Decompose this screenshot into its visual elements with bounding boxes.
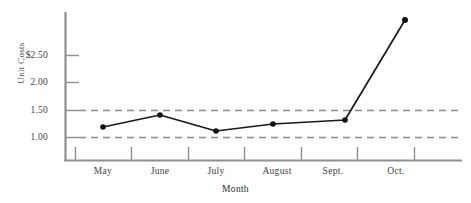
x-axis-ticks xyxy=(76,147,415,161)
y-axis-ticks xyxy=(65,56,79,138)
chart-page: { "chart_data": { "type": "line", "title… xyxy=(0,0,471,203)
data-point xyxy=(402,17,408,23)
data-point xyxy=(213,128,219,134)
data-point xyxy=(270,121,276,127)
axis-lines xyxy=(64,12,462,161)
data-point-markers xyxy=(100,17,408,134)
data-point xyxy=(100,124,106,130)
data-point xyxy=(342,117,348,123)
line-chart-plot xyxy=(0,0,471,203)
data-point xyxy=(157,112,163,118)
data-series-line xyxy=(103,20,405,131)
